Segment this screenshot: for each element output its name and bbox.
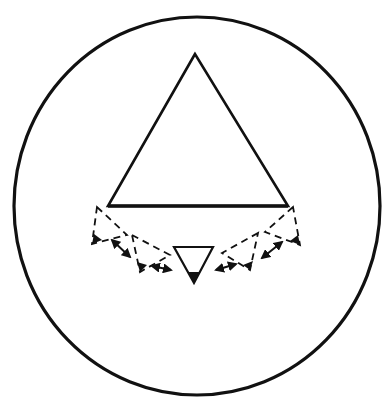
diagram-canvas [0,0,391,406]
dashed-triangle-left-inner [132,235,170,272]
double-arrows [112,240,282,270]
double-arrow-icon [216,264,236,270]
large-triangle [108,54,288,206]
double-arrow-icon [112,240,130,257]
triangle-rotation-diagram [0,0,391,406]
filled-corner-right-inner [243,261,253,270]
filled-corner-right-outer [290,235,300,245]
dashed-triangle-right-inner [222,233,258,270]
double-arrow-icon [152,266,171,270]
double-arrow-icon [262,242,282,258]
dashed-rotated-triangles [92,207,300,272]
